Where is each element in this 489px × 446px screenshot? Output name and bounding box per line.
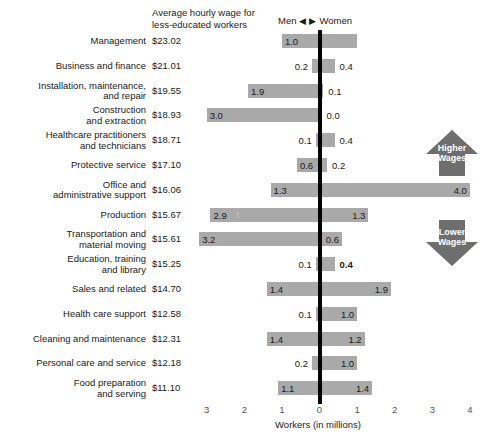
bar-value-men: 1.0: [285, 36, 298, 47]
table-row: Business and finance$21.010.20.4: [0, 55, 489, 77]
zero-axis-line: [318, 30, 322, 404]
table-row: Installation, maintenance,and repair$19.…: [0, 80, 489, 102]
table-row: Health care support$12.580.11.0: [0, 303, 489, 325]
lower-wages-line2: Wages: [424, 237, 480, 247]
men-label: Men: [278, 15, 296, 26]
axis-tick-label: 1: [354, 404, 359, 415]
row-plot: 3.20.6: [0, 228, 489, 250]
table-row: Management$23.021.0: [0, 30, 489, 52]
table-row: Transportation andmaterial moving$15.613…: [0, 228, 489, 250]
bar-value-men: 3.2: [202, 234, 215, 245]
bar-value-women: 0.0: [327, 110, 340, 121]
higher-wages-line2: Wages: [424, 153, 480, 163]
lower-wages-badge: Lower Wages: [424, 218, 480, 268]
bar-value-women: 1.0: [341, 358, 354, 369]
table-row: Sales and related$14.701.41.9: [0, 278, 489, 300]
bar-value-men: 1.9: [251, 85, 264, 96]
table-row: Cleaning and maintenance$12.311.41.2: [0, 328, 489, 350]
table-row: Protective service$17.100.60.2: [0, 154, 489, 176]
row-plot: 3.00.0: [0, 104, 489, 126]
bar-value-women: 0.6: [326, 234, 339, 245]
row-plot: 1.41.9: [0, 278, 489, 300]
table-row: Food preparationand serving$11.101.11.4: [0, 377, 489, 399]
bar-value-men: 0.1: [299, 259, 312, 270]
axis-tick-label: 3: [204, 404, 209, 415]
women-label: Women: [319, 15, 352, 26]
higher-wages-line1: Higher: [424, 143, 480, 153]
axis-tick-label: 3: [430, 404, 435, 415]
row-plot: 1.34.0: [0, 179, 489, 201]
bar-women: [320, 34, 358, 48]
bar-men: [199, 232, 319, 246]
table-row: Office andadministrative support$16.061.…: [0, 179, 489, 201]
row-plot: 0.60.2: [0, 154, 489, 176]
lower-wages-line1: Lower: [424, 227, 480, 237]
table-row: Education, trainingand library$15.250.10…: [0, 253, 489, 275]
axis-tick-label: 2: [242, 404, 247, 415]
bar-value-men: 1.1: [281, 383, 294, 394]
bar-value-men: 3.0: [210, 110, 223, 121]
left-triangle-icon: ◀: [299, 16, 307, 26]
bar-value-women: 1.3: [352, 209, 365, 220]
bar-women: [320, 59, 335, 73]
bar-value-men: 1.4: [270, 333, 283, 344]
data-marker: !: [236, 210, 239, 220]
bar-value-women: 1.0: [341, 308, 354, 319]
bar-value-men: 1.3: [274, 184, 287, 195]
bar-women: [320, 183, 470, 197]
bar-value-men: 0.1: [299, 308, 312, 319]
bar-value-women: 1.9: [375, 284, 388, 295]
row-plot: 1.0: [0, 30, 489, 52]
bar-value-women: 0.1: [328, 85, 341, 96]
bar-value-men: 0.2: [295, 358, 308, 369]
bar-value-men: 1.4: [270, 284, 283, 295]
row-plot: 0.10.4: [0, 129, 489, 151]
row-plot: 0.21.0: [0, 352, 489, 374]
bar-value-women: 1.4: [356, 383, 369, 394]
x-axis-title: Workers (in millions): [275, 419, 361, 430]
axis-tick-label: 4: [467, 404, 472, 415]
table-row: Personal care and service$12.180.21.0: [0, 352, 489, 374]
row-plot: 1.90.1: [0, 80, 489, 102]
gender-direction-header: Men ◀ ▶ Women: [278, 15, 352, 27]
bar-value-men: 0.2: [295, 60, 308, 71]
right-triangle-icon: ▶: [309, 16, 317, 26]
wage-column-header: Average hourly wage for less-educated wo…: [152, 7, 272, 30]
higher-wages-badge: Higher Wages: [424, 128, 480, 178]
axis-tick-label: 2: [392, 404, 397, 415]
wage-chart: Average hourly wage for less-educated wo…: [0, 0, 489, 446]
row-plot: 1.41.2: [0, 328, 489, 350]
row-plot: 0.10.4: [0, 253, 489, 275]
bar-value-women: 0.2: [332, 160, 345, 171]
bar-value-women: 4.0: [454, 184, 467, 195]
bar-value-men: 2.9: [213, 209, 226, 220]
bar-value-women: 0.4: [340, 60, 353, 71]
bar-men: [210, 208, 319, 222]
bar-value-women: 1.2: [348, 333, 361, 344]
table-row: Healthcare practitionersand technicians$…: [0, 129, 489, 151]
bar-value-women: 0.4: [340, 259, 353, 270]
table-row: Constructionand extraction$18.933.00.0: [0, 104, 489, 126]
bar-men: [207, 108, 320, 122]
bar-women: [320, 257, 335, 271]
row-plot: 1.11.4: [0, 377, 489, 399]
bar-value-men: 0.1: [299, 135, 312, 146]
row-plot: 0.11.0: [0, 303, 489, 325]
bar-women: [320, 133, 335, 147]
bar-value-men: 0.6: [300, 160, 313, 171]
row-plot: 2.9!1.3: [0, 204, 489, 226]
axis-tick-label: 1: [279, 404, 284, 415]
x-axis-ticks: 32101234: [0, 404, 489, 418]
axis-tick-label: 0: [317, 404, 322, 415]
table-row: Production$15.672.9!1.3: [0, 204, 489, 226]
bar-value-women: 0.4: [340, 135, 353, 146]
row-plot: 0.20.4: [0, 55, 489, 77]
